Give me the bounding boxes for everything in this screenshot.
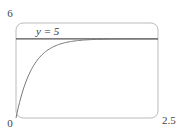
chart: 6 0 2.5 y = 5 — [0, 0, 183, 135]
y-max-label: 6 — [7, 7, 13, 19]
asymptote-label: y = 5 — [35, 25, 60, 37]
x-max-label: 2.5 — [162, 114, 176, 126]
origin-label: 0 — [7, 117, 13, 129]
curve-line — [16, 39, 158, 118]
plot-frame — [16, 23, 158, 118]
